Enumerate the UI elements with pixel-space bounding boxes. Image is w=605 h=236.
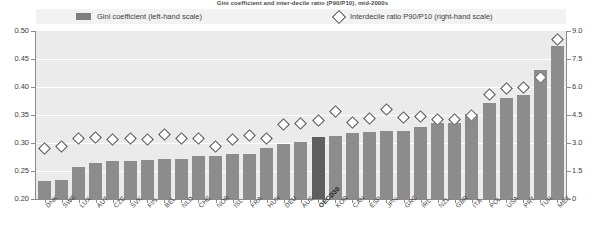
legend-label-ratio: Interdecile ratio P90/P10 (right-hand sc… (350, 12, 493, 21)
bar (534, 70, 547, 199)
bar-group (121, 31, 138, 199)
ratio-marker (192, 132, 205, 145)
chart-root: Gini coefficient and inter-decile ratio … (0, 0, 605, 236)
bar-group (515, 31, 532, 199)
bar (517, 95, 530, 199)
bar (312, 137, 325, 199)
bar-group (156, 31, 173, 199)
ratio-marker (38, 142, 51, 155)
bar-group (344, 31, 361, 199)
bar (226, 154, 239, 199)
right-axis-tick (567, 143, 571, 144)
bar-group (190, 31, 207, 199)
ratio-marker (397, 111, 410, 124)
right-axis-tick (567, 59, 571, 60)
left-axis-tick (31, 31, 35, 32)
bar-group (241, 31, 258, 199)
bar (89, 163, 102, 199)
right-axis-tick-label: 7.5 (572, 55, 602, 63)
ratio-marker (124, 132, 137, 145)
bar (260, 148, 273, 199)
bar (448, 123, 461, 199)
right-axis-tick (567, 31, 571, 32)
bar-group (429, 31, 446, 199)
bar-group (532, 31, 549, 199)
left-axis-tick-label: 0.40 (0, 83, 29, 91)
ratio-marker (380, 104, 393, 117)
bar-group (481, 31, 498, 199)
bar (158, 159, 171, 199)
left-axis-tick (31, 115, 35, 116)
bar-group (53, 31, 70, 199)
diamond-marker-icon (332, 9, 346, 23)
ratio-marker (414, 110, 427, 123)
bar (124, 161, 137, 199)
bar (465, 114, 478, 199)
bar (243, 154, 256, 199)
bar-swatch-icon (76, 13, 91, 20)
bar (72, 167, 85, 199)
right-axis-tick-label: 4.5 (572, 111, 602, 119)
bar-group (549, 31, 566, 199)
bar (277, 144, 290, 199)
bar-group (36, 31, 53, 199)
ratio-marker (363, 112, 376, 125)
bar (363, 132, 376, 199)
bar-group (87, 31, 104, 199)
bar (483, 103, 496, 199)
bar-group (463, 31, 480, 199)
legend-label-gini: Gini coefficient (left-hand scale) (97, 12, 202, 21)
bar-group (258, 31, 275, 199)
ratio-marker (72, 132, 85, 145)
bar-group (70, 31, 87, 199)
right-axis-tick-label: 6.0 (572, 83, 602, 91)
ratio-marker (346, 116, 359, 129)
bar-group (498, 31, 515, 199)
right-axis-tick (567, 171, 571, 172)
ratio-marker (55, 141, 68, 154)
bar (192, 156, 205, 199)
ratio-marker (107, 133, 120, 146)
right-axis-tick-label: 9.0 (572, 27, 602, 35)
bar (380, 131, 393, 199)
left-axis-tick-label: 0.25 (0, 167, 29, 175)
right-axis-tick (567, 87, 571, 88)
right-axis-tick-label: 1.5 (572, 167, 602, 175)
bar-group (378, 31, 395, 199)
ratio-marker (551, 33, 564, 46)
ratio-marker (243, 129, 256, 142)
bar (500, 98, 513, 199)
bar-group (207, 31, 224, 199)
bar (431, 123, 444, 199)
left-axis-tick-label: 0.30 (0, 139, 29, 147)
ratio-marker (500, 82, 513, 95)
ratio-marker (89, 132, 102, 145)
ratio-marker (483, 88, 496, 101)
bar-group (446, 31, 463, 199)
left-axis-tick (31, 199, 35, 200)
bar (175, 159, 188, 199)
ratio-marker (158, 129, 171, 142)
bar (294, 142, 307, 199)
left-axis-tick (31, 59, 35, 60)
ratio-marker (295, 117, 308, 130)
right-axis-tick-label: 0 (572, 195, 602, 203)
bar (414, 127, 427, 199)
bar-group (173, 31, 190, 199)
ratio-marker (226, 133, 239, 146)
ratio-marker (278, 118, 291, 131)
bar (397, 131, 410, 199)
legend-item-ratio: Interdecile ratio P90/P10 (right-hand sc… (334, 9, 493, 24)
bar (141, 160, 154, 199)
x-axis-labels: DNKSWELUXAUTCZESVKFINBELNLDCHENORISLFRAH… (36, 200, 566, 236)
ratio-marker (175, 132, 188, 145)
bar-group (139, 31, 156, 199)
bar-group (292, 31, 309, 199)
bar (551, 46, 564, 199)
bar-series (36, 31, 566, 199)
bar-group (224, 31, 241, 199)
left-axis-tick (31, 87, 35, 88)
bar (209, 156, 222, 199)
bar-group (395, 31, 412, 199)
bar (38, 181, 51, 199)
